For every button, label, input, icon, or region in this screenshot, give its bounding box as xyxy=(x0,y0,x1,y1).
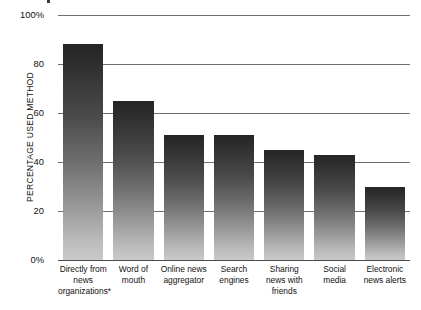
y-tick-label-80: 80 xyxy=(0,59,44,68)
x-axis-label-line: news xyxy=(58,275,108,286)
bar xyxy=(113,101,153,260)
x-axis-label-line: Search xyxy=(209,264,259,275)
x-axis-label-line: friends xyxy=(259,286,309,297)
bar xyxy=(314,155,354,260)
x-axis-label: Searchengines xyxy=(209,264,259,286)
cut-off-title-mark xyxy=(47,0,50,3)
x-axis-label-line: aggregator xyxy=(159,275,209,286)
x-axis-label-line: news with xyxy=(259,275,309,286)
x-axis-label-line: Directly from xyxy=(58,264,108,275)
x-axis-label-line: Online news xyxy=(159,264,209,275)
bar xyxy=(164,135,204,260)
x-axis-label-line: Sharing xyxy=(259,264,309,275)
y-tick-label-60: 60 xyxy=(0,108,44,117)
x-axis-label: Word ofmouth xyxy=(108,264,158,286)
bar xyxy=(63,44,103,260)
x-axis-label-line: Electronic xyxy=(360,264,410,275)
y-axis-title: PERCENTAGE USED METHOD xyxy=(25,22,35,252)
plot-area: 100%806040200% xyxy=(58,15,410,260)
x-axis-label-line: organizations* xyxy=(58,286,108,297)
gridline-0 xyxy=(58,260,410,261)
x-axis-label: Directly fromnewsorganizations* xyxy=(58,264,108,296)
x-axis-label-line: Word of xyxy=(108,264,158,275)
bar xyxy=(264,150,304,260)
y-tick-label-0: 0% xyxy=(0,255,44,264)
x-axis-label-line: media xyxy=(309,275,359,286)
x-axis-label: Sharingnews withfriends xyxy=(259,264,309,296)
x-axis-label-line: mouth xyxy=(108,275,158,286)
y-tick-label-20: 20 xyxy=(0,206,44,215)
x-axis-label-line: news alerts xyxy=(360,275,410,286)
bar xyxy=(365,187,405,261)
x-axis-label: Electronicnews alerts xyxy=(360,264,410,286)
x-axis-label: Online newsaggregator xyxy=(159,264,209,286)
bars-group xyxy=(58,15,410,260)
x-axis-label-line: Social xyxy=(309,264,359,275)
x-axis-label: Socialmedia xyxy=(309,264,359,286)
y-tick-label-40: 40 xyxy=(0,157,44,166)
bar-chart: PERCENTAGE USED METHOD 100%806040200% Di… xyxy=(0,0,421,310)
x-axis-label-line: engines xyxy=(209,275,259,286)
bar xyxy=(214,135,254,260)
x-axis-category-labels: Directly fromnewsorganizations*Word ofmo… xyxy=(58,264,410,310)
y-tick-label-100: 100% xyxy=(0,10,44,19)
